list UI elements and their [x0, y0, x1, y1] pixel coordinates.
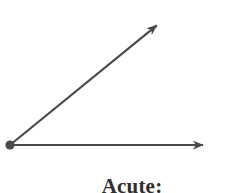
- angle-vertex-dot: [5, 140, 14, 149]
- caption: Acute:: [0, 176, 250, 193]
- angle-diagram-svg: [0, 0, 250, 193]
- caption-label: Acute:: [102, 176, 163, 193]
- diagonal-ray: [10, 25, 157, 145]
- acute-angle-figure: Acute:: [0, 0, 250, 193]
